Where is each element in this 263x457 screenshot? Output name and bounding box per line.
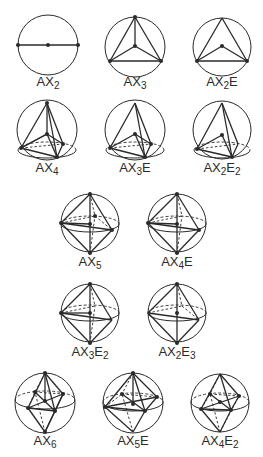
atom-dot — [59, 221, 63, 225]
diagram-ax6: AX6 — [15, 371, 75, 450]
atom-dot — [195, 147, 199, 151]
bond-edge — [135, 103, 145, 157]
atom-dot — [110, 228, 114, 232]
atom-dot — [120, 392, 124, 396]
atom-dot — [155, 395, 159, 399]
geometry-label: AX2E3 — [158, 344, 196, 361]
atom-dot — [53, 409, 57, 413]
diagram-ax5: AX5 — [59, 192, 119, 271]
atom-dot — [149, 142, 153, 146]
atom-dot — [159, 59, 163, 63]
geometry-label: AX6 — [34, 433, 57, 450]
atom-dot — [88, 311, 92, 315]
bond-edge — [57, 144, 63, 157]
atom-dot — [146, 221, 150, 225]
atom-dot — [88, 192, 92, 196]
atom-dot — [76, 43, 80, 47]
bond-edge — [148, 313, 199, 320]
diagram-ax3e2: AX3E2 — [59, 282, 119, 361]
diagram-ax2e2: AX2E2 — [193, 101, 251, 177]
geometry-label: AX2E — [206, 74, 238, 91]
atom-dot — [108, 59, 112, 63]
diagram-ax2e: AX2E — [193, 18, 251, 91]
diagram-ax2: AX2 — [16, 15, 80, 91]
diagram-ax4e: AX4E — [146, 192, 206, 271]
bond-edge — [145, 144, 151, 157]
bond-edge — [135, 103, 151, 144]
diagram-ax3: AX3 — [105, 15, 165, 91]
bond-edge — [47, 103, 63, 144]
bond-edge — [177, 194, 199, 230]
atom-dot — [43, 371, 47, 375]
atom-dot — [197, 228, 201, 232]
atom-dot — [229, 408, 233, 412]
atom-dot — [131, 402, 135, 406]
atom-dot — [103, 405, 107, 409]
bounding-sphere — [105, 100, 165, 160]
atom-dot — [61, 392, 65, 396]
atom-dot — [175, 311, 179, 315]
atom-dot — [237, 394, 241, 398]
atom-dot — [55, 155, 59, 159]
bond-edge — [61, 313, 112, 320]
atom-dot — [88, 222, 92, 226]
diagram-ax4: AX4 — [17, 100, 77, 177]
bond-edge — [197, 18, 222, 61]
atom-dot — [93, 214, 97, 218]
geometry-label: AX4E2 — [201, 433, 239, 450]
atom-dot — [59, 311, 63, 315]
bond-edge — [222, 103, 238, 144]
atom-dot — [133, 15, 137, 19]
atom-dot — [208, 392, 212, 396]
geometry-label: AX2 — [37, 74, 60, 91]
bond-edge — [110, 17, 135, 61]
atom-dot — [143, 409, 147, 413]
atom-dot — [61, 142, 65, 146]
atom-dot — [88, 282, 92, 286]
atom-dot — [175, 192, 179, 196]
vsepr-geometry-figure: AX2AX3AX2EAX4AX3EAX2E2AX5AX4EAX3E2AX2E3A… — [0, 0, 263, 457]
atom-dot — [220, 44, 224, 48]
atom-dot — [133, 132, 137, 136]
geometry-label: AX5 — [79, 254, 102, 271]
bond-edge — [201, 409, 220, 432]
diagram-ax4e2: AX4E2 — [191, 374, 249, 450]
geometry-label: AX2E2 — [203, 160, 241, 177]
atom-dot — [33, 390, 37, 394]
atom-dot — [45, 132, 49, 136]
hidden-edge — [90, 216, 95, 253]
geometry-label: AX3E2 — [71, 344, 109, 361]
atom-dot — [175, 282, 179, 286]
atom-dot — [108, 146, 112, 150]
atom-dot — [133, 44, 137, 48]
atom-dot — [46, 43, 50, 47]
geometry-label: AX4 — [36, 160, 59, 177]
atom-dot — [175, 222, 179, 226]
geometry-label: AX3 — [124, 74, 147, 91]
bond-edge — [220, 410, 231, 432]
atom-dot — [220, 133, 224, 137]
bond-edge — [133, 411, 145, 432]
bond-edge — [47, 103, 57, 157]
atom-dot — [195, 59, 199, 63]
bond-edge — [135, 17, 161, 61]
atom-dot — [45, 101, 49, 105]
bond-edge — [90, 194, 112, 230]
geometry-label: AX3E — [119, 160, 151, 177]
atom-dot — [43, 399, 47, 403]
atom-dot — [131, 371, 135, 375]
diagram-ax2e3: AX2E3 — [148, 282, 206, 361]
atom-dot — [218, 400, 222, 404]
bond-edge — [222, 18, 247, 61]
atom-dot — [26, 406, 30, 410]
atom-dot — [143, 155, 147, 159]
diagram-ax5e: AX5E — [103, 371, 163, 450]
bond-edge — [177, 284, 199, 320]
hidden-edge — [177, 216, 182, 253]
bond-edge — [222, 103, 232, 157]
atom-dot — [245, 59, 249, 63]
bond-edge — [90, 284, 112, 320]
atom-dot — [19, 146, 23, 150]
geometry-label: AX4E — [161, 254, 193, 271]
bond-edge — [28, 408, 45, 432]
